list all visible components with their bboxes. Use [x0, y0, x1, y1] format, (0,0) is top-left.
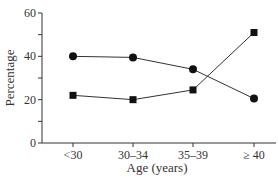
- series-line: [73, 56, 254, 98]
- series-line: [73, 33, 254, 100]
- x-axis-title: Age (years): [127, 160, 188, 175]
- square-marker: [190, 86, 197, 93]
- y-axis-title: Percentage: [2, 49, 17, 106]
- y-tick-label: 0: [30, 136, 36, 150]
- y-tick-label: 60: [24, 6, 36, 20]
- y-axis-ticks: 0204060: [24, 6, 42, 150]
- axes: [42, 13, 276, 143]
- circle-marker: [189, 65, 197, 73]
- x-tick-label: ≥ 40: [243, 148, 265, 162]
- circle-marker: [250, 95, 258, 103]
- circle-marker: [69, 52, 77, 60]
- circle-marker: [129, 53, 137, 61]
- square-marker: [251, 29, 258, 36]
- y-tick-label: 20: [24, 93, 36, 107]
- line-chart: 0204060 <3030–3435–39≥ 40 Age (years) Pe…: [0, 0, 279, 181]
- square-marker: [130, 96, 137, 103]
- data-series: [69, 29, 258, 103]
- square-marker: [70, 92, 77, 99]
- x-tick-label: <30: [64, 148, 83, 162]
- square-series: [70, 29, 258, 103]
- y-tick-label: 40: [24, 49, 36, 63]
